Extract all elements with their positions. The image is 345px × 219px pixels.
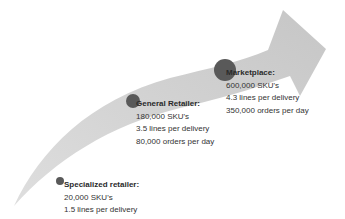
stage-orders: 350,000 orders per day: [226, 105, 309, 118]
stage-title: Marketplace:: [226, 67, 309, 80]
stage-skus: 180,000 SKU's: [136, 111, 214, 124]
stage-lines: 1.5 lines per delivery: [64, 204, 139, 217]
stage-label-specialized: Specialized retailer: 20,000 SKU's 1.5 l…: [64, 179, 139, 218]
stage-label-marketplace: Marketplace: 600,000 SKU's 4.3 lines per…: [226, 67, 309, 117]
stage-orders: 5,000 orders per day: [64, 217, 139, 219]
stage-title: Specialized retailer:: [64, 179, 139, 192]
stage-lines: 4.3 lines per delivery: [226, 92, 309, 105]
stage-lines: 3.5 lines per delivery: [136, 123, 214, 136]
stage-skus: 600,000 SKU's: [226, 80, 309, 93]
stage-marker-specialized: [56, 177, 64, 185]
stage-orders: 80,000 orders per day: [136, 136, 214, 149]
stage-skus: 20,000 SKU's: [64, 192, 139, 205]
stage-title: General Retailer:: [136, 98, 214, 111]
stage-label-general: General Retailer: 180,000 SKU's 3.5 line…: [136, 98, 214, 148]
